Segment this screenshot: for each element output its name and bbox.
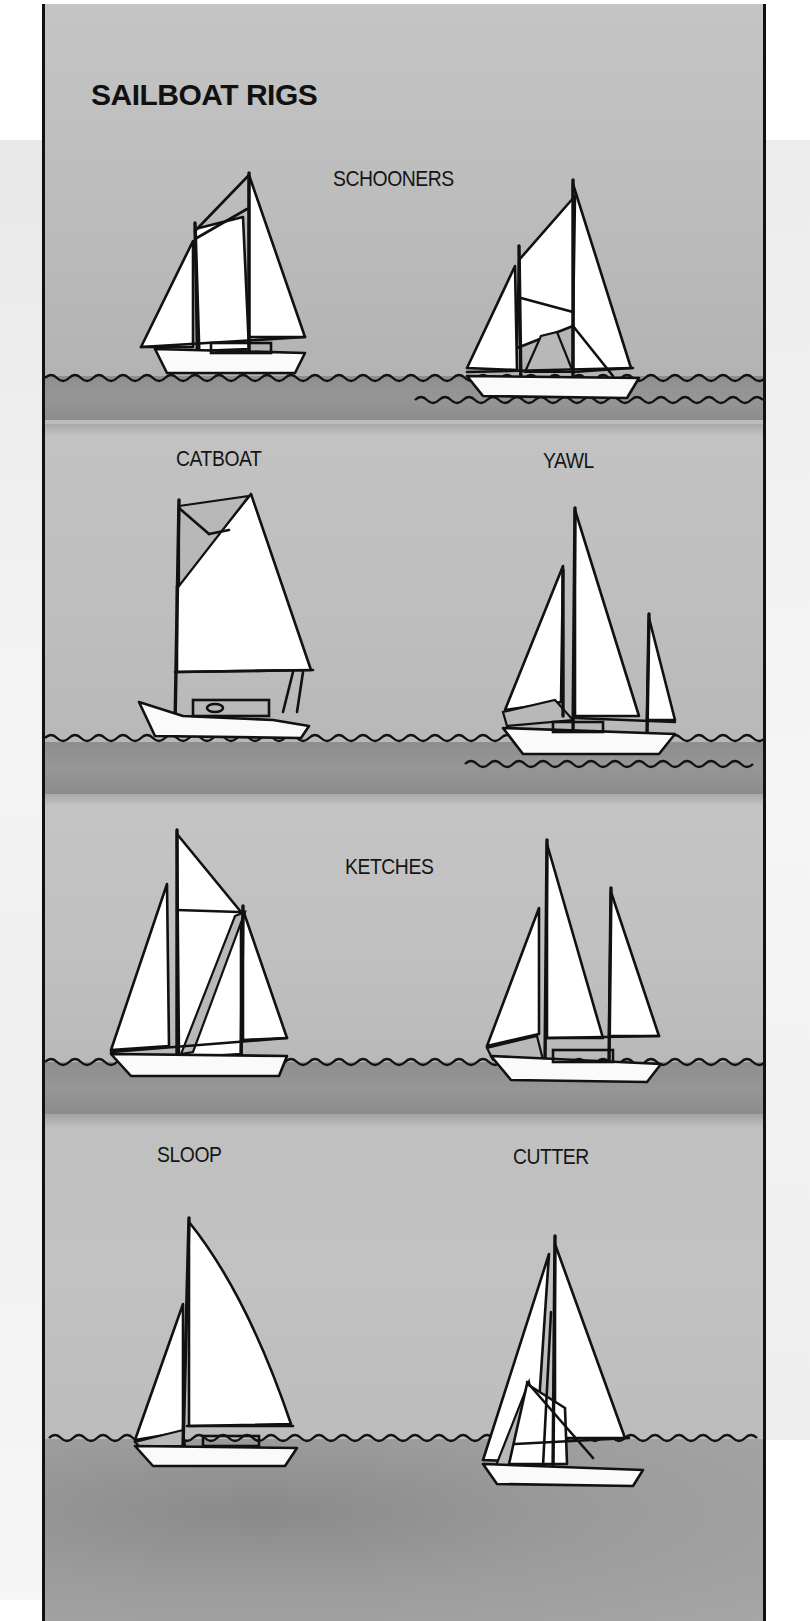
panel-sloop-cutter: SLOOP CUTTER — [45, 1114, 763, 1621]
cutter-illustration — [475, 1232, 675, 1492]
panel-ketches: KETCHES — [45, 794, 763, 1114]
sloop-illustration — [127, 1214, 327, 1474]
panel-schooners: SAILBOAT RIGS SCHOONERS — [45, 4, 763, 424]
ketch-1-illustration — [107, 824, 317, 1074]
right-page-scrap — [766, 140, 810, 1440]
label-catboat: CATBOAT — [176, 446, 261, 472]
page-title: SAILBOAT RIGS — [91, 78, 317, 112]
ketch-2-illustration — [483, 838, 683, 1088]
label-yawl: YAWL — [543, 448, 594, 474]
yawl-illustration — [497, 506, 697, 756]
left-page-scrap — [0, 140, 42, 1600]
schooner-2-illustration — [463, 176, 663, 406]
label-cutter: CUTTER — [513, 1144, 589, 1170]
catboat-illustration — [133, 490, 333, 740]
panel-catboat-yawl: CATBOAT YAWL — [45, 424, 763, 794]
label-schooners: SCHOONERS — [333, 166, 454, 192]
label-ketches: KETCHES — [345, 854, 433, 880]
schooner-1-illustration — [133, 169, 333, 379]
label-sloop: SLOOP — [157, 1142, 222, 1168]
illustration-page: SAILBOAT RIGS SCHOONERS — [42, 4, 766, 1621]
